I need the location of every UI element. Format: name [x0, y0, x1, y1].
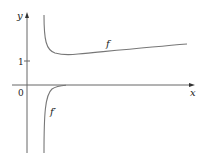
graph: y x 0 1 f f′	[0, 0, 207, 159]
y-axis-label: y	[16, 10, 23, 21]
curve-f-prime-label: f′	[49, 106, 57, 117]
curve-f	[44, 15, 187, 55]
origin-label: 0	[18, 88, 24, 98]
x-axis-label: x	[190, 87, 196, 98]
y-tick-label-1: 1	[18, 57, 24, 67]
y-axis-arrow-icon	[25, 12, 29, 18]
curve-f-label: f	[105, 38, 112, 49]
curve-f-prime	[44, 85, 66, 153]
